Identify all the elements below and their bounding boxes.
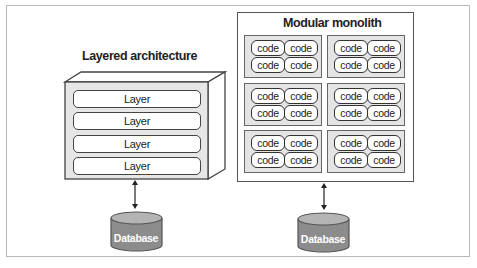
module: code code code code	[244, 130, 322, 173]
database-label: Database	[297, 233, 349, 245]
module: code code code code	[327, 130, 405, 173]
database-label: Database	[110, 232, 162, 244]
layer-box: Layer	[73, 112, 201, 130]
code-unit: code	[284, 152, 318, 168]
module: code code code code	[327, 35, 405, 78]
code-unit: code	[334, 40, 368, 56]
code-unit: code	[367, 40, 401, 56]
code-unit: code	[367, 105, 401, 121]
code-unit: code	[251, 135, 285, 151]
bidirectional-arrow-icon	[321, 183, 327, 210]
layer-box: Layer	[73, 157, 201, 175]
code-unit: code	[334, 152, 368, 168]
code-unit: code	[251, 105, 285, 121]
code-unit: code	[367, 135, 401, 151]
code-unit: code	[284, 105, 318, 121]
code-unit: code	[334, 57, 368, 73]
layer-box: Layer	[73, 90, 201, 108]
code-unit: code	[284, 88, 318, 104]
code-unit: code	[367, 88, 401, 104]
code-unit: code	[334, 88, 368, 104]
module: code code code code	[244, 35, 322, 78]
box-top-face	[65, 72, 225, 82]
code-unit: code	[334, 135, 368, 151]
modular-monolith-title: Modular monolith	[283, 16, 381, 30]
layer-box: Layer	[73, 135, 201, 153]
module: code code code code	[327, 83, 405, 126]
code-unit: code	[251, 88, 285, 104]
code-unit: code	[251, 57, 285, 73]
code-unit: code	[284, 135, 318, 151]
module: code code code code	[244, 83, 322, 126]
code-unit: code	[251, 152, 285, 168]
code-unit: code	[367, 152, 401, 168]
bidirectional-arrow-icon	[132, 180, 138, 209]
box-side-face	[208, 72, 225, 179]
code-unit: code	[334, 105, 368, 121]
code-unit: code	[367, 57, 401, 73]
code-unit: code	[284, 40, 318, 56]
code-unit: code	[284, 57, 318, 73]
code-unit: code	[251, 40, 285, 56]
